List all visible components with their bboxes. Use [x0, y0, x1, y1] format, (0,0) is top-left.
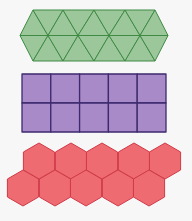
square-tile — [51, 74, 80, 103]
square-tile — [80, 103, 109, 132]
square-tile — [22, 103, 51, 132]
tessellation-diagram — [0, 0, 192, 221]
hexagon-tessellation — [7, 143, 180, 206]
triangle-tessellation — [20, 10, 168, 61]
square-tile — [137, 74, 166, 103]
square-tile — [51, 103, 80, 132]
square-tile — [80, 74, 109, 103]
square-tile — [108, 103, 137, 132]
square-tile — [137, 103, 166, 132]
square-tile — [22, 74, 51, 103]
square-tessellation — [22, 74, 166, 132]
square-tile — [108, 74, 137, 103]
